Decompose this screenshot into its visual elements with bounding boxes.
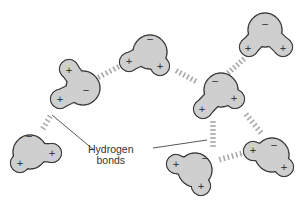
positive-charge-icon: +	[56, 94, 64, 104]
positive-charge-icon: +	[280, 162, 288, 172]
label-line-2: bonds	[88, 155, 134, 166]
positive-charge-icon: +	[16, 158, 24, 168]
hydrogen-bonds-label: Hydrogen bonds	[88, 144, 134, 166]
water-molecules-group: −++−++−++−++−++−++−++	[10, 13, 293, 196]
positive-charge-icon: +	[172, 159, 180, 169]
positive-charge-icon: +	[156, 61, 164, 71]
hydrogen-bond	[175, 69, 196, 84]
water-molecule: −++	[239, 13, 292, 57]
hydrogen-bond	[41, 115, 53, 129]
hydrogen-bond	[244, 113, 263, 134]
positive-charge-icon: +	[244, 43, 252, 53]
negative-charge-icon: −	[82, 85, 90, 95]
negative-charge-icon: −	[261, 19, 269, 29]
water-molecule: −++	[50, 59, 100, 108]
positive-charge-icon: +	[249, 145, 257, 155]
hydrogen-bond	[98, 65, 120, 80]
positive-charge-icon: +	[65, 65, 73, 75]
water-molecule: −++	[119, 34, 169, 76]
water-molecule: −++	[10, 131, 61, 173]
water-molecule: −++	[243, 138, 293, 177]
negative-charge-icon: −	[25, 131, 33, 141]
hydrogen-bond	[210, 122, 216, 146]
leader-line	[153, 140, 207, 148]
positive-charge-icon: +	[125, 56, 133, 66]
water-molecule: −++	[166, 153, 212, 196]
water-molecule: −++	[193, 73, 244, 119]
hydrogen-bond-diagram: −++−++−++−++−++−++−++	[0, 0, 304, 205]
negative-charge-icon: −	[146, 34, 154, 44]
positive-charge-icon: +	[279, 43, 287, 53]
negative-charge-icon: −	[270, 140, 278, 150]
hydrogen-bond	[227, 57, 246, 75]
hydrogen-bond	[219, 150, 245, 162]
negative-charge-icon: −	[201, 153, 209, 163]
positive-charge-icon: +	[197, 181, 205, 191]
positive-charge-icon: +	[230, 93, 238, 103]
negative-charge-icon: −	[211, 76, 219, 86]
positive-charge-icon: +	[198, 104, 206, 114]
positive-charge-icon: +	[48, 148, 56, 158]
